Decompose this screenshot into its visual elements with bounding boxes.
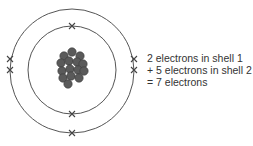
caption-line-1: 2 electrons in shell 1 [147,52,252,64]
nucleus-particle [80,67,88,75]
nucleus-particle [67,72,75,80]
caption-line-3: = 7 electrons [147,76,252,88]
nucleus-particle [75,74,83,82]
nucleus-particle [57,59,65,67]
electron-icon [7,56,13,62]
nucleus [57,48,88,88]
caption-line-2: + 5 electrons in shell 2 [147,64,252,76]
electron-count-caption: 2 electrons in shell 1 + 5 electrons in … [147,52,252,88]
nucleus-particle [64,80,72,88]
nucleus-particle [65,57,73,65]
electron-icon [131,56,137,62]
nucleus-particle [68,48,76,56]
